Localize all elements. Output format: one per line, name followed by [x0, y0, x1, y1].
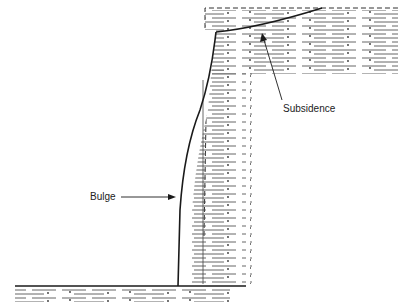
cross-section-diagram: [0, 0, 400, 302]
bulge-label: Bulge: [90, 191, 116, 202]
base-strata: [15, 286, 246, 302]
upper-strata: [192, 10, 398, 284]
subsidence-label: Subsidence: [283, 103, 335, 114]
